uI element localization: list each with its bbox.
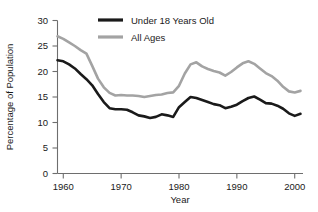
legend-label: Under 18 Years Old — [131, 15, 214, 26]
x-tick-label: 1980 — [168, 181, 189, 192]
line-chart: 051015202530 Percentage of Population 19… — [0, 0, 318, 212]
y-tick-label: 0 — [43, 168, 48, 179]
x-tick-label: 1970 — [111, 181, 132, 192]
chart-canvas: 051015202530 Percentage of Population 19… — [0, 0, 318, 212]
x-tick-labels: 19601970198019902000 — [53, 181, 306, 192]
y-axis-title: Percentage of Population — [4, 44, 15, 151]
x-axis: 19601970198019902000 Year — [53, 174, 306, 206]
legend-label: All Ages — [131, 32, 166, 43]
y-axis: 051015202530 Percentage of Population — [4, 15, 58, 179]
y-tick-label: 5 — [43, 142, 48, 153]
x-tick-marks — [63, 174, 294, 179]
x-tick-label: 2000 — [284, 181, 305, 192]
x-axis-title: Year — [170, 194, 189, 205]
y-tick-labels: 051015202530 — [37, 15, 48, 179]
y-tick-label: 15 — [37, 91, 48, 102]
series-lines — [58, 36, 301, 118]
x-tick-label: 1960 — [53, 181, 74, 192]
y-tick-label: 10 — [37, 117, 48, 128]
x-tick-label: 1990 — [226, 181, 247, 192]
y-tick-label: 20 — [37, 66, 48, 77]
chart-legend: Under 18 Years OldAll Ages — [98, 15, 214, 43]
y-tick-label: 30 — [37, 15, 48, 26]
y-tick-label: 25 — [37, 40, 48, 51]
y-tick-marks — [53, 21, 58, 174]
